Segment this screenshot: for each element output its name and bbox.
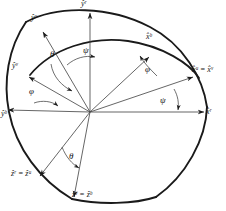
label-z-r-equals-z-u: ẑʳ = ẑᵘ — [11, 170, 31, 178]
label-x-r: x̂ʳ — [206, 108, 211, 116]
label-psi-upper: ψ — [83, 46, 89, 55]
label-y-v: ŷᵛ — [12, 62, 18, 70]
label-y-u: ŷᵘ — [31, 14, 37, 22]
angle-arc-theta-upper — [51, 64, 72, 91]
inner-arc — [30, 40, 199, 78]
angle-arc-psi-upper — [67, 56, 95, 65]
label-y-b: ŷᵇ — [1, 110, 7, 118]
label-x-u-equals-x-v: x̂ᵘ = x̂ᵛ — [192, 66, 213, 74]
vector-z-vb — [74, 112, 90, 197]
vector-z-ru — [40, 112, 90, 176]
label-z-v-equals-z-b: ẑᵛ = ẑᵇ — [72, 191, 92, 199]
label-theta-upper: θ — [50, 50, 54, 59]
label-theta-lower: θ — [69, 152, 73, 161]
vector-x-b — [90, 57, 149, 112]
label-psi-right: ψ — [160, 96, 166, 105]
diagram-canvas — [0, 0, 226, 211]
angle-arc-psi-right — [174, 89, 178, 110]
label-x-b: x̂ᵇ — [146, 33, 152, 41]
vector-frame-diagram: ŷʳ ŷᵘ ŷᵛ ŷᵇ x̂ᵇ x̂ᵘ = x̂ᵛ x̂ʳ ẑʳ = … — [0, 0, 226, 211]
vector-y-b — [8, 110, 90, 112]
angle-arc-phi-left — [34, 101, 58, 106]
vector-x-uv — [90, 77, 193, 112]
label-phi-left: φ — [29, 87, 34, 96]
label-phi-right: φ — [145, 65, 150, 74]
label-y-r: ŷʳ — [81, 0, 86, 8]
